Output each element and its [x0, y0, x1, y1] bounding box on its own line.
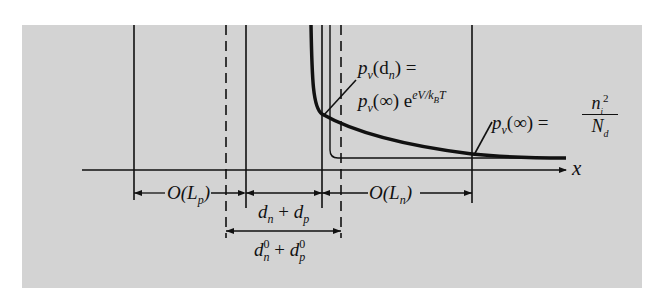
x-axis-label: x: [572, 158, 581, 179]
O-L: O(L: [167, 182, 198, 203]
sup-0: 0: [299, 237, 305, 251]
symbol-p: p: [358, 90, 368, 111]
exponent: eV/k: [412, 88, 433, 102]
sub-p: p: [299, 250, 305, 264]
close-paren: ): [406, 182, 412, 203]
d: d: [294, 201, 304, 222]
sub-p: p: [198, 193, 204, 207]
close-paren: ): [204, 182, 210, 203]
infinity-equals: (∞) =: [507, 112, 549, 133]
dim-label-dn0-dp0: dn0 + dp0: [254, 240, 305, 259]
plus: +: [270, 239, 290, 260]
sub-n: n: [264, 250, 270, 264]
dim-label-O-Ln: O(Ln): [368, 183, 413, 202]
subscript-n: n: [389, 68, 395, 82]
subscript-v: v: [502, 123, 507, 137]
sub-d: d: [604, 128, 609, 139]
O-L: O(L: [369, 182, 400, 203]
fraction: ni2 Nd: [582, 94, 618, 135]
arg-open: (d: [373, 57, 389, 78]
equals: ) =: [395, 57, 417, 78]
symbol-p: p: [358, 57, 368, 78]
dim-label-dn-dp: dn + dp: [258, 202, 309, 221]
subscript-v: v: [368, 101, 373, 115]
denominator: Nd: [582, 117, 618, 135]
diagram-graphics: [0, 0, 655, 299]
leader-right-label: [474, 122, 492, 155]
sup-0: 0: [264, 237, 270, 251]
sub-p: p: [303, 212, 309, 226]
dim-label-O-Lp: O(Lp): [166, 183, 211, 202]
top-label-line1: pv(dn) =: [358, 58, 416, 77]
symbol-p: p: [492, 112, 502, 133]
d: d: [290, 239, 300, 260]
d: d: [254, 239, 264, 260]
numerator: ni2: [582, 94, 618, 112]
infinity-exp: (∞) e: [373, 90, 412, 111]
right-label: pv(∞) =: [492, 113, 549, 132]
d: d: [258, 201, 268, 222]
sub-n: n: [400, 193, 406, 207]
subscript-v: v: [368, 68, 373, 82]
N: N: [591, 116, 603, 136]
top-label-line2: pv(∞) eeV/kBT: [358, 91, 446, 110]
sup-2: 2: [603, 92, 609, 104]
sub-n: n: [268, 212, 274, 226]
plus: +: [274, 201, 294, 222]
sub-i: i: [600, 106, 603, 116]
exponent-T: T: [439, 88, 446, 102]
leader-top-label: [323, 80, 356, 116]
